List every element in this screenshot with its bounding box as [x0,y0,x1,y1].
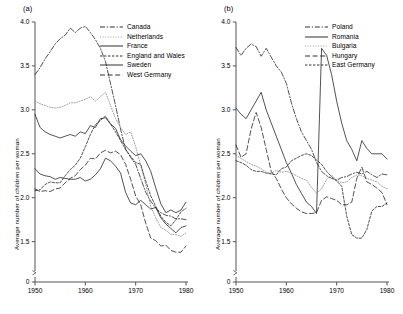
series-line [35,150,186,252]
legend-item[interactable]: Hungary [305,51,375,61]
y-tick-label: 0 [26,278,30,285]
y-tick-label: 4.0 [20,18,29,25]
panel-a-legend: CanadaNetherlandsFranceEngland and Wales… [100,22,185,80]
y-tick-label: 2.0 [221,194,230,201]
legend-key-solid-icon [100,41,123,51]
legend-label: East Germany [332,60,375,70]
legend-key-longdash-icon [100,70,123,80]
y-tick-label: 3.0 [221,106,230,113]
legend-item[interactable]: Netherlands [100,32,185,42]
y-tick-label: 2.0 [20,194,29,201]
legend-item[interactable]: France [100,41,185,51]
legend-item[interactable]: England and Wales [100,51,185,61]
y-tick-label: 1.5 [20,238,29,245]
legend-key-shortdash-icon [305,60,328,70]
legend-key-dashdot-icon [100,22,123,32]
y-tick-label: 3.5 [221,62,230,69]
chart-panel-a: (a) Average number of children per woman… [0,0,201,314]
legend-label: Poland [332,22,353,32]
y-tick-label: 4.0 [221,18,230,25]
legend-label: Canada [127,22,150,32]
y-tick-label: 1.5 [221,238,230,245]
legend-key-dotted-icon [305,41,328,51]
legend-label: France [127,41,148,51]
legend-label: Netherlands [127,32,163,42]
x-tick-label: 1950 [28,287,43,294]
figure-root: (a) Average number of children per woman… [0,0,403,314]
x-tick-label: 1970 [128,287,143,294]
legend-key-solid-icon [100,60,123,70]
series-line [35,158,186,233]
legend-key-dotted-icon [100,32,123,42]
legend-item[interactable]: Bulgaria [305,41,375,51]
series-line [35,116,186,226]
legend-label: Sweden [127,60,151,70]
legend-key-dashdot-icon [305,22,328,32]
legend-label: Bulgaria [332,41,357,51]
legend-key-longdash-icon [305,51,328,61]
y-tick-label: 3.0 [20,106,29,113]
panel-b-legend: PolandRomaniaBulgariaHungaryEast Germany [305,22,375,70]
x-tick-label: 1970 [329,287,344,294]
legend-label: England and Wales [127,51,185,61]
legend-key-solid-icon [305,32,328,42]
x-tick-label: 1980 [380,287,395,294]
legend-item[interactable]: West Germany [100,70,185,80]
y-tick-label: 3.5 [20,62,29,69]
series-line [236,112,387,213]
legend-item[interactable]: Canada [100,22,185,32]
legend-label: West Germany [127,70,171,80]
legend-label: Hungary [332,51,357,61]
y-tick-label: 2.5 [20,150,29,157]
y-tick-label: 0 [227,278,231,285]
y-tick-label: 2.5 [221,150,230,157]
legend-item[interactable]: Sweden [100,60,185,70]
chart-panel-b: (b) Average number of children per woman… [201,0,402,314]
legend-item[interactable]: East Germany [305,60,375,70]
x-tick-label: 1960 [78,287,93,294]
x-tick-label: 1950 [229,287,244,294]
legend-label: Romania [332,32,359,42]
legend-key-shortdash-icon [100,51,123,61]
x-tick-label: 1960 [279,287,294,294]
legend-item[interactable]: Romania [305,32,375,42]
series-line [35,92,186,236]
x-tick-label: 1980 [179,287,194,294]
series-line [236,48,387,213]
series-line [236,154,387,238]
series-line [35,114,186,212]
legend-item[interactable]: Poland [305,22,375,32]
